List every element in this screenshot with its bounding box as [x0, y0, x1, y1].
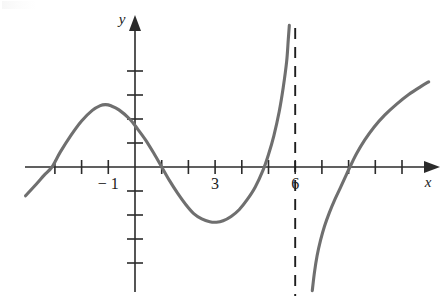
- x-axis-label: x: [424, 174, 432, 190]
- x-axis-tick-label: − 1: [98, 175, 119, 192]
- x-axis-tick-labels: − 136: [98, 175, 299, 192]
- x-axis-group: [25, 161, 440, 173]
- y-axis-group: [129, 15, 141, 292]
- x-axis-tick-label: 3: [211, 175, 219, 192]
- function-curve-right-branch: [312, 82, 428, 291]
- graph-plot: − 136 x y: [0, 0, 448, 304]
- y-axis-arrowhead: [129, 15, 141, 31]
- figure-canvas: − 136 x y: [0, 0, 448, 304]
- function-curve-left-branch: [26, 25, 290, 222]
- x-axis-tick-label: 6: [291, 175, 299, 192]
- scan-artifact: [2, 1, 36, 9]
- x-axis-arrowhead: [424, 161, 440, 173]
- y-axis-label: y: [117, 11, 126, 27]
